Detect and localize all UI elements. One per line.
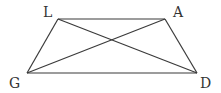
edge-AD <box>165 19 197 73</box>
vertex-label-D: D <box>200 75 211 91</box>
trapezoid-diagram: L A G D <box>0 0 221 93</box>
vertex-label-L: L <box>43 4 52 20</box>
edge-GL <box>27 19 58 73</box>
vertex-label-G: G <box>9 75 20 91</box>
vertex-label-A: A <box>172 4 184 20</box>
diagonal-AG <box>27 19 165 73</box>
diagonal-LD <box>58 19 197 73</box>
